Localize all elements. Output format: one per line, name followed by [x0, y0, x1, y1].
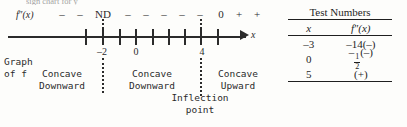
axis-tick	[85, 29, 87, 45]
inflection-point-label: Inflection point	[171, 92, 228, 116]
test-numbers-title: Test Numbers	[288, 6, 392, 19]
graph-of-f-line2: of f	[4, 68, 33, 80]
sign-chart-diagram: f″(x) – – ND – – – – – 0 + + x –2 0 4 Gr…	[0, 0, 272, 127]
table-row: 0 –12(–)	[288, 51, 392, 66]
sign-item: –	[77, 8, 83, 20]
axis-tick	[135, 29, 137, 45]
inflection-point-line2: point	[171, 104, 228, 116]
sign-item: +	[236, 8, 242, 20]
graph-of-f-line1: Graph	[4, 56, 33, 68]
concavity-region-right-line2: Upward	[218, 80, 258, 92]
concavity-region-left: Concave Downward	[39, 68, 85, 92]
concavity-region-right: Concave Upward	[218, 68, 258, 92]
sign-item-zero: 0	[218, 8, 224, 20]
sign-row: – – ND – – – – – 0 + +	[62, 8, 232, 20]
tick-label: 0	[134, 46, 139, 57]
sign-item: –	[179, 8, 185, 20]
sign-item: –	[143, 8, 149, 20]
axis-variable-label: x	[251, 29, 255, 40]
axis-arrowhead-icon	[240, 30, 249, 40]
sign-item: –	[161, 8, 167, 20]
boundary-line-lower-4	[200, 58, 202, 96]
axis-tick	[184, 29, 186, 45]
column-header-x: x	[288, 22, 330, 34]
concavity-region-middle-line2: Downward	[129, 80, 175, 92]
second-derivative-label: f″(x)	[16, 9, 34, 20]
axis-tick	[168, 29, 170, 45]
tick-label: –2	[97, 46, 107, 57]
sign-item: –	[59, 8, 65, 20]
concavity-region-right-line1: Concave	[218, 68, 258, 80]
axis-tick	[119, 29, 121, 45]
inflection-point-line1: Inflection	[171, 92, 228, 104]
boundary-line-lower-neg2	[102, 58, 104, 93]
axis-tick	[152, 29, 154, 45]
concavity-region-middle-line1: Concave	[129, 68, 175, 80]
cell-x: 0	[288, 53, 330, 65]
table-row: 5 (+)	[288, 66, 392, 81]
cell-value-suffix: (–)	[360, 46, 373, 58]
test-numbers-table: Test Numbers x f″(x) –3 –14(–) 0 –12(–) …	[288, 6, 392, 82]
concavity-region-left-line1: Concave	[39, 68, 85, 80]
concavity-region-middle: Concave Downward	[129, 68, 175, 92]
tick-label: 4	[200, 46, 205, 57]
sign-item: –	[125, 8, 131, 20]
table-header-row: x f″(x)	[288, 20, 392, 35]
graph-of-f-label: Graph of f	[4, 56, 33, 80]
sign-item: +	[254, 8, 260, 20]
boundary-line-upper-4	[200, 19, 202, 33]
cell-value: (+)	[330, 68, 392, 80]
axis-tick	[217, 29, 219, 45]
column-header-fpp: f″(x)	[330, 22, 392, 34]
cell-x: 5	[288, 68, 330, 80]
boundary-line-upper-neg2	[102, 19, 104, 33]
concavity-region-left-line2: Downward	[39, 80, 85, 92]
number-line-axis	[8, 36, 246, 38]
second-derivative-text: f″(x)	[16, 9, 34, 20]
cell-x: –3	[288, 38, 330, 50]
table-rule-bottom	[288, 81, 392, 82]
